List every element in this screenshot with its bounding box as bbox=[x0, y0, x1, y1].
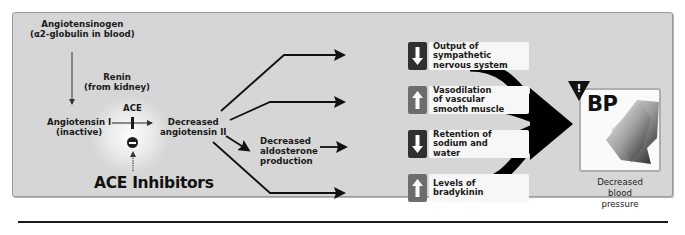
down-arrow-icon bbox=[408, 42, 427, 70]
effect-vasodilation: Vasodilation of vascular smooth muscle bbox=[408, 86, 529, 114]
renin-label: Renin (from kidney) bbox=[84, 72, 150, 92]
bp-label: BP bbox=[587, 92, 617, 116]
down-arrow-icon bbox=[408, 130, 427, 158]
angiotensin-i-label: Angiotensin I (inactive) bbox=[47, 117, 111, 137]
blood-pressure-box: BP bbox=[579, 88, 661, 172]
decreased-bp-caption: Decreased blood pressure bbox=[565, 177, 675, 210]
warning-icon: ! bbox=[567, 80, 591, 102]
angiotensinogen-label: Angiotensinogen (α2-globulin in blood) bbox=[30, 19, 135, 39]
up-arrow-icon bbox=[408, 174, 427, 202]
ace-label: ACE bbox=[123, 103, 142, 113]
inhibition-minus-icon bbox=[127, 137, 138, 148]
ace-block-bar bbox=[131, 117, 134, 129]
effect-sodium-water-retention: Retention of sodium and water bbox=[408, 130, 529, 158]
ace-inhibitors-label: ACE Inhibitors bbox=[94, 174, 214, 192]
up-arrow-icon bbox=[408, 86, 427, 114]
decreased-angiotensin-ii-label: Decreased angiotensin II bbox=[160, 117, 227, 137]
svg-text:!: ! bbox=[576, 82, 581, 95]
effect-bradykinin: Levels of bradykinin bbox=[408, 174, 529, 202]
aldosterone-label: Decreased aldosterone production bbox=[260, 136, 318, 166]
effect-sympathetic-output: Output of sympathetic nervous system bbox=[408, 42, 529, 70]
